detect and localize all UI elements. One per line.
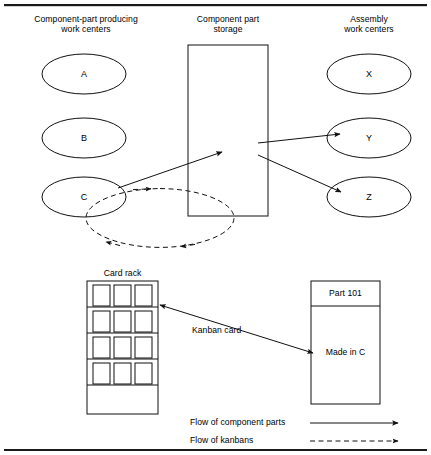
column-heading-producing-line1: Component-part producing bbox=[6, 14, 166, 24]
kanban-card-slot bbox=[114, 363, 131, 384]
column-heading-storage-line2: storage bbox=[176, 24, 280, 34]
kanban-loop-path bbox=[86, 189, 234, 248]
part-card-graphic[interactable] bbox=[311, 281, 380, 404]
work-center-label-b: B bbox=[81, 133, 87, 143]
column-heading-storage: Component part storage bbox=[176, 14, 280, 35]
legend-item-kanbans: Flow of kanbans bbox=[190, 435, 253, 445]
kanban-card-slot bbox=[135, 311, 152, 332]
legend-item-component-parts: Flow of component parts bbox=[190, 417, 285, 427]
column-heading-producing: Component-part producing work centers bbox=[6, 14, 166, 35]
kanban-card-slot bbox=[93, 363, 110, 384]
work-center-label-y: Y bbox=[366, 133, 372, 143]
kanban-card-slot bbox=[114, 337, 131, 358]
kanban-card-slot bbox=[114, 285, 131, 306]
column-heading-assembly-line2: work centers bbox=[315, 24, 423, 34]
work-center-label-a: A bbox=[81, 69, 87, 79]
kanban-card-slot bbox=[93, 311, 110, 332]
kanban-flow-loop bbox=[86, 189, 234, 248]
card-rack-frame bbox=[87, 281, 158, 414]
figure-root: A B C X Y Z Component-part producing wor… bbox=[0, 0, 431, 455]
made-in-label: Made in C bbox=[311, 347, 380, 357]
kanban-card-slot bbox=[135, 337, 152, 358]
card-rack-graphic[interactable] bbox=[87, 281, 158, 414]
column-heading-assembly-line1: Assembly bbox=[315, 14, 423, 24]
component-part-storage-box[interactable] bbox=[188, 45, 268, 216]
top-rule bbox=[4, 4, 427, 6]
kanban-loop-arrow-bottom-left bbox=[106, 242, 120, 246]
kanban-card-slot bbox=[93, 337, 110, 358]
kanban-card-slot bbox=[135, 285, 152, 306]
work-center-label-z: Z bbox=[366, 192, 372, 202]
flow-arrow-c-to-storage bbox=[118, 152, 222, 188]
column-heading-producing-line2: work centers bbox=[6, 24, 166, 34]
kanban-card-slot bbox=[93, 285, 110, 306]
diagram-canvas: A B C X Y Z bbox=[0, 0, 431, 455]
part-number-label: Part 101 bbox=[311, 288, 380, 298]
kanban-card-slot bbox=[114, 311, 131, 332]
column-heading-assembly: Assembly work centers bbox=[315, 14, 423, 35]
flow-arrow-storage-to-z bbox=[258, 155, 341, 192]
kanban-card-annotation: Kanban card bbox=[192, 325, 241, 335]
work-center-label-c: C bbox=[81, 192, 88, 202]
kanban-card-slot bbox=[135, 363, 152, 384]
bottom-rule bbox=[4, 449, 427, 451]
part-card-frame bbox=[311, 281, 380, 404]
column-heading-storage-line1: Component part bbox=[176, 14, 280, 24]
work-center-label-x: X bbox=[366, 69, 372, 79]
card-rack-label: Card rack bbox=[87, 268, 158, 278]
